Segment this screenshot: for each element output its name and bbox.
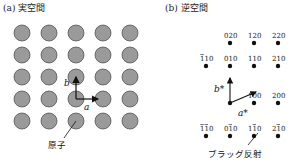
- atom: [95, 47, 111, 63]
- atom: [41, 113, 57, 129]
- atom: [41, 91, 57, 107]
- atom: [68, 47, 84, 63]
- bragg-label: ブラッグ反射: [208, 149, 262, 159]
- atom: [14, 91, 30, 107]
- atom: [14, 47, 30, 63]
- reciprocal-point: [252, 41, 256, 45]
- miller-index-label: 120: [248, 32, 261, 40]
- miller-index-label: 010: [224, 125, 237, 133]
- atom: [41, 69, 57, 85]
- vector-b-star-label: b*: [214, 84, 225, 94]
- atom: [122, 91, 138, 107]
- atom: [41, 25, 57, 41]
- vector-b-label: b: [64, 78, 70, 88]
- miller-index-label: 210: [272, 55, 285, 63]
- miller-index-label: 110: [200, 125, 213, 133]
- vector-a-label: a: [84, 102, 89, 112]
- atom-label: 原子: [48, 140, 66, 150]
- reciprocal-point: [228, 134, 232, 138]
- reciprocal-point: [276, 41, 280, 45]
- reciprocal-lattice: 020120220110010110210100200110010110210: [200, 32, 285, 138]
- reciprocal-point: [204, 134, 208, 138]
- atom: [95, 113, 111, 129]
- reciprocal-point: [228, 64, 232, 68]
- reciprocal-point: [276, 101, 280, 105]
- miller-index-label: 020: [224, 32, 237, 40]
- miller-index-label: 200: [272, 92, 285, 100]
- atom: [122, 113, 138, 129]
- reciprocal-point: [252, 101, 256, 105]
- reciprocal-point: [228, 41, 232, 45]
- reciprocal-point: [204, 64, 208, 68]
- atom: [68, 25, 84, 41]
- vector-a-star-label: a*: [238, 108, 248, 118]
- diagram-canvas: a b 原子 020120220110010110210100200110010…: [0, 0, 297, 162]
- atom: [122, 47, 138, 63]
- atom: [122, 69, 138, 85]
- miller-index-label: 110: [248, 55, 261, 63]
- miller-index-label: 210: [272, 125, 285, 133]
- atom: [41, 47, 57, 63]
- atom: [95, 69, 111, 85]
- atom: [95, 25, 111, 41]
- miller-index-label: 010: [224, 55, 237, 63]
- reciprocal-point: [252, 64, 256, 68]
- atom: [14, 25, 30, 41]
- reciprocal-point: [276, 134, 280, 138]
- miller-index-label: 110: [200, 55, 213, 63]
- miller-index-label: 100: [248, 92, 261, 100]
- atom: [14, 113, 30, 129]
- atom: [14, 69, 30, 85]
- reciprocal-point: [276, 64, 280, 68]
- atom: [122, 25, 138, 41]
- miller-index-label: 220: [272, 32, 285, 40]
- miller-index-label: 110: [248, 125, 261, 133]
